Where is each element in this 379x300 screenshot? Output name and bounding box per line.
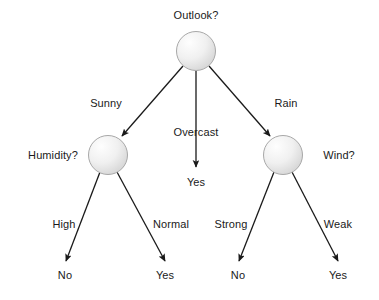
node-circle-wind[interactable] — [264, 136, 303, 175]
edge-humidity-normal — [117, 172, 165, 261]
node-label-outlook: Outlook? — [174, 9, 219, 22]
node-label-wind: Wind? — [323, 149, 355, 162]
edge-label-normal: Normal — [153, 218, 189, 231]
edge-label-strong: Strong — [214, 218, 247, 231]
leaf-label-weak-yes: Yes — [329, 269, 347, 282]
edge-label-weak: Weak — [324, 218, 352, 231]
edge-line-normal — [117, 172, 165, 261]
leaf-label-normal-yes: Yes — [156, 269, 174, 282]
node-circle-outlook[interactable] — [177, 32, 216, 71]
edge-label-high: High — [52, 218, 75, 231]
leaf-label-strong-no: No — [231, 269, 245, 282]
edge-line-strong — [239, 172, 274, 261]
leaf-label-high-no: No — [58, 269, 72, 282]
decision-tree-diagram: Outlook? Humidity? Wind? Sunny Overcast … — [0, 0, 379, 300]
edge-humidity-high — [66, 172, 100, 261]
node-circle-humidity[interactable] — [89, 136, 128, 175]
leaf-label-overcast-yes: Yes — [187, 176, 205, 189]
edge-wind-strong — [239, 172, 274, 261]
edge-line-weak — [292, 172, 338, 261]
node-label-humidity: Humidity? — [28, 149, 78, 162]
edge-wind-weak — [292, 172, 338, 261]
edge-label-overcast: Overcast — [174, 126, 219, 139]
edge-line-high — [66, 172, 100, 261]
edge-label-sunny: Sunny — [90, 97, 122, 110]
edge-label-rain: Rain — [274, 97, 297, 110]
